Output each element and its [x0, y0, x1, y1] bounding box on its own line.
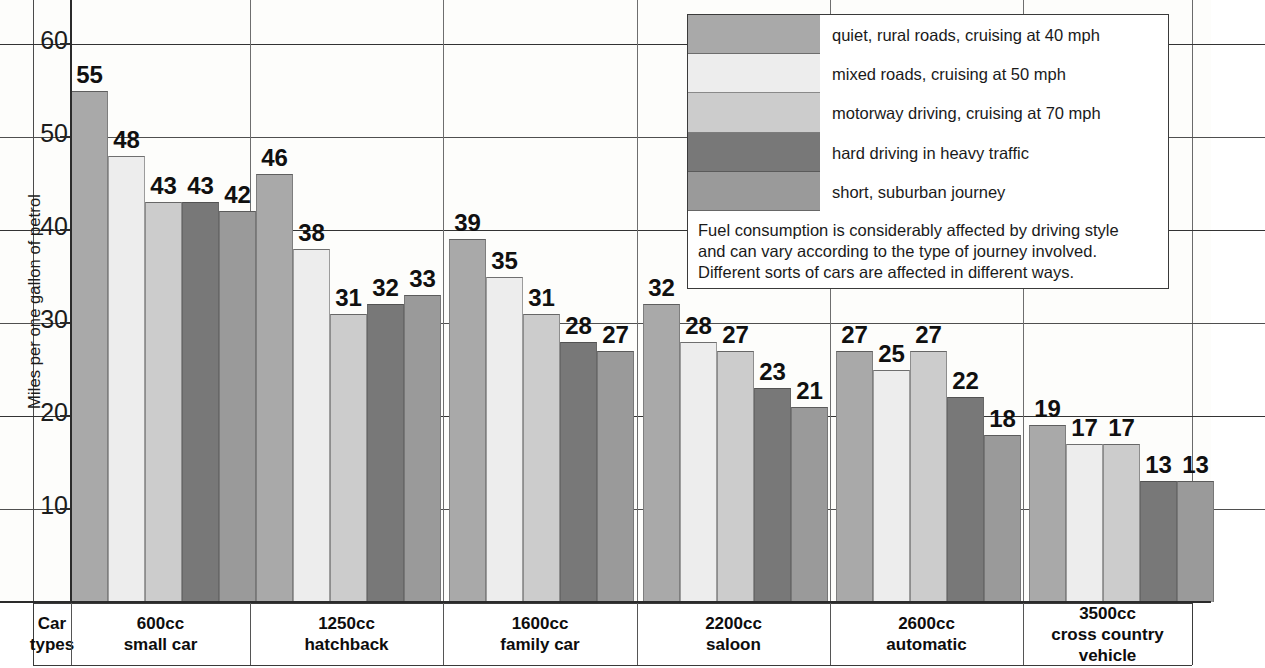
bar-value-label: 55: [71, 61, 108, 89]
category-cell-1: 600ccsmall car: [71, 603, 250, 665]
bar: [1029, 425, 1066, 602]
category-cell-line-1: 1250cc: [318, 613, 375, 634]
bar-value-label: 28: [680, 312, 717, 340]
legend-swatch-1: [688, 15, 820, 54]
bar-value-label: 19: [1029, 395, 1066, 423]
bar: [486, 277, 523, 603]
bar: [71, 91, 108, 603]
bar: [560, 342, 597, 602]
bar-value-label: 27: [597, 321, 634, 349]
bar-value-label: 17: [1103, 414, 1140, 442]
category-cell-line-1: 2600cc: [898, 613, 955, 634]
category-divider-2: [250, 603, 251, 665]
bar: [1177, 481, 1214, 602]
bar: [108, 156, 145, 602]
bar-value-label: 43: [145, 172, 182, 200]
bar-value-label: 23: [754, 358, 791, 386]
y-tick-mark-20: [60, 415, 70, 417]
bar: [791, 407, 828, 602]
y-tick-mark-60: [60, 43, 70, 45]
bar-value-label: 13: [1140, 451, 1177, 479]
bar-value-label: 38: [293, 219, 330, 247]
bar: [1066, 444, 1103, 602]
legend-note: Fuel consumption is considerably affecte…: [698, 220, 1160, 283]
bar: [910, 351, 947, 602]
bar-value-label: 48: [108, 126, 145, 154]
bar-value-label: 42: [219, 181, 256, 209]
category-divider-1: [71, 603, 72, 665]
category-cell-3: 1600ccfamily car: [443, 603, 637, 665]
bar-value-label: 32: [367, 274, 404, 302]
legend-swatches: [688, 15, 820, 211]
legend-note-line-3: Different sorts of cars are affected in …: [698, 262, 1160, 283]
bar: [404, 295, 441, 602]
y-tick-mark-30: [60, 322, 70, 324]
bar-value-label: 32: [643, 274, 680, 302]
bar: [1140, 481, 1177, 602]
bar-value-label: 25: [873, 340, 910, 368]
category-divider-3: [443, 603, 444, 665]
category-axis-title: Cartypes: [33, 603, 71, 665]
category-strip: Cartypes600ccsmall car1250cchatchback160…: [0, 603, 1211, 668]
category-cell-5: 2600ccautomatic: [830, 603, 1023, 665]
group-separator-2: [443, 0, 444, 602]
legend-label-3: motorway driving, cruising at 70 mph: [832, 104, 1101, 123]
bar-value-label: 22: [947, 367, 984, 395]
bar-value-label: 33: [404, 265, 441, 293]
y-tick-label-60: 60: [32, 26, 68, 55]
bar: [523, 314, 560, 602]
legend-swatch-3: [688, 93, 820, 132]
category-divider-6: [1023, 603, 1024, 665]
category-strip-right-border: [1192, 603, 1193, 665]
category-cell-6: 3500cccross country vehicle: [1023, 603, 1192, 665]
legend-swatch-5: [688, 172, 820, 211]
bar-value-label: 46: [256, 144, 293, 172]
y-tick-mark-10: [60, 508, 70, 510]
category-axis-title-line-1: Car: [38, 613, 66, 634]
group-separator-3: [637, 0, 638, 602]
y-tick-mark-50: [60, 136, 70, 138]
bar: [643, 304, 680, 602]
y-axis-line: [70, 0, 72, 606]
bar-value-label: 27: [717, 321, 754, 349]
category-axis-title-line-2: types: [30, 634, 74, 655]
category-cell-line-2: automatic: [886, 634, 966, 655]
category-cell-line-2: cross country vehicle: [1023, 624, 1192, 666]
bar: [182, 202, 219, 602]
bar-value-label: 17: [1066, 414, 1103, 442]
category-cell-line-1: 3500cc: [1079, 603, 1136, 624]
bar-value-label: 27: [836, 321, 873, 349]
bar: [367, 304, 404, 602]
bar: [145, 202, 182, 602]
bar-value-label: 21: [791, 377, 828, 405]
bar: [984, 435, 1021, 602]
legend-label-1: quiet, rural roads, cruising at 40 mph: [832, 26, 1100, 45]
category-cell-line-2: saloon: [706, 634, 761, 655]
bar: [597, 351, 634, 602]
bar-value-label: 28: [560, 312, 597, 340]
category-strip-bottom-border: [33, 665, 1192, 666]
bar: [219, 211, 256, 602]
bar: [256, 174, 293, 602]
category-cell-line-1: 2200cc: [705, 613, 762, 634]
bar-value-label: 31: [330, 284, 367, 312]
category-cell-line-1: 1600cc: [512, 613, 569, 634]
y-tick-mark-40: [60, 229, 70, 231]
bar: [754, 388, 791, 602]
legend-note-line-1: Fuel consumption is considerably affecte…: [698, 220, 1160, 241]
legend-swatch-4: [688, 133, 820, 172]
bar-value-label: 35: [486, 247, 523, 275]
bar-value-label: 13: [1177, 451, 1214, 479]
category-cell-4: 2200ccsaloon: [637, 603, 830, 665]
category-cell-line-2: hatchback: [304, 634, 388, 655]
category-cell-line-2: small car: [124, 634, 198, 655]
bar: [1103, 444, 1140, 602]
bar: [293, 249, 330, 602]
legend-label-2: mixed roads, cruising at 50 mph: [832, 65, 1066, 84]
legend-label-5: short, suburban journey: [832, 183, 1005, 202]
legend-box: quiet, rural roads, cruising at 40 mphmi…: [687, 14, 1169, 289]
bar-value-label: 27: [910, 321, 947, 349]
category-cell-line-2: family car: [500, 634, 579, 655]
legend-label-4: hard driving in heavy traffic: [832, 144, 1029, 163]
